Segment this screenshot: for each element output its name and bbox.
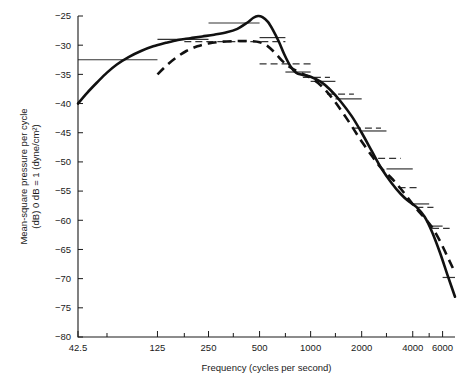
x-tick-label: 125 xyxy=(150,342,166,353)
y-tick-label: −70 xyxy=(55,273,71,284)
y-axis-label-line2: (dB) 0 dB = 1 (dyne/cm²) xyxy=(30,124,41,228)
y-tick-label: −65 xyxy=(55,244,71,255)
y-tick-label: −80 xyxy=(55,331,71,342)
y-tick-label: −55 xyxy=(55,185,71,196)
spectrum-chart-figure: −25−30−35−40−45−50−55−60−65−70−75−80 42.… xyxy=(0,0,472,386)
y-axis-label-line1: Mean-square pressure per cycle xyxy=(18,108,29,244)
x-axis-ticks: 42.51252505001000200040006000 xyxy=(69,331,453,353)
y-tick-label: −45 xyxy=(55,127,71,138)
y-tick-label: −75 xyxy=(55,302,71,313)
x-tick-label: 250 xyxy=(201,342,217,353)
y-tick-label: −30 xyxy=(55,40,71,51)
x-tick-label: 2000 xyxy=(351,342,372,353)
y-tick-label: −40 xyxy=(55,98,71,109)
y-tick-label: −35 xyxy=(55,69,71,80)
y-tick-label: −60 xyxy=(55,215,71,226)
x-tick-label: 4000 xyxy=(402,342,423,353)
y-tick-label: −50 xyxy=(55,156,71,167)
solid-band-segments xyxy=(78,23,455,277)
x-tick-label: 42.5 xyxy=(69,342,88,353)
x-tick-label: 6000 xyxy=(432,342,453,353)
chart-canvas: −25−30−35−40−45−50−55−60−65−70−75−80 42.… xyxy=(0,0,472,386)
solid-curve xyxy=(78,16,455,297)
x-tick-label: 500 xyxy=(252,342,268,353)
y-tick-label: −25 xyxy=(55,10,71,21)
x-axis-label: Frequency (cycles per second) xyxy=(202,362,332,373)
x-tick-label: 1000 xyxy=(300,342,321,353)
